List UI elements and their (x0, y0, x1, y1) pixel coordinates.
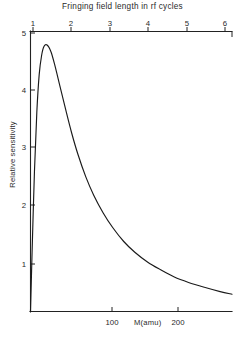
top-tick-label-4: 4 (146, 19, 150, 28)
bottom-tick-label-100: 100 (105, 318, 118, 327)
left-tick-label-3: 3 (22, 143, 26, 152)
top-tick-label-5: 5 (185, 19, 189, 28)
bottom-axis-ticks (112, 307, 178, 312)
left-tick-label-4: 4 (22, 86, 26, 95)
chart-figure: Fringing field length in rf cycles Relat… (0, 0, 245, 341)
top-tick-label-2: 2 (69, 19, 73, 28)
left-tick-label-5: 5 (22, 29, 26, 38)
chart-top-axis-title: Fringing field length in rf cycles (0, 2, 245, 11)
chart-plot-area (0, 0, 245, 341)
left-tick-label-2: 2 (22, 201, 26, 210)
chart-x-axis-caption: M(amu) (134, 318, 161, 327)
left-tick-label-1: 1 (22, 260, 26, 269)
bottom-tick-label-200: 200 (171, 318, 184, 327)
top-tick-label-1: 1 (31, 19, 35, 28)
top-tick-label-6: 6 (223, 19, 227, 28)
chart-y-axis-title: Relative sensitivity (8, 115, 17, 195)
sensitivity-curve (31, 45, 233, 312)
top-tick-label-3: 3 (108, 19, 112, 28)
